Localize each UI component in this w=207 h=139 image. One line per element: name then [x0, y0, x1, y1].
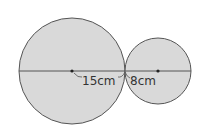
small-radius-label: 8cm [130, 74, 156, 88]
small-center-point [156, 69, 159, 72]
large-radius-label: 15cm [82, 74, 116, 88]
large-center-point [70, 69, 73, 72]
two-circles-diagram: 15cm 8cm [0, 0, 207, 139]
